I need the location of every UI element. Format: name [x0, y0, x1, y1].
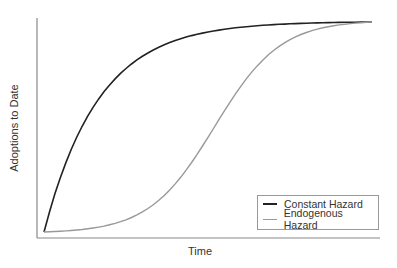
legend-item-endogenous: Endogenous Hazard [258, 212, 378, 226]
x-axis-label: Time [150, 245, 250, 257]
legend: Constant Hazard Endogenous Hazard [257, 195, 379, 230]
black-line-swatch-icon [263, 203, 277, 205]
gray-line-swatch-icon [263, 219, 277, 220]
y-axis-label: Adoptions to Date [8, 78, 20, 178]
